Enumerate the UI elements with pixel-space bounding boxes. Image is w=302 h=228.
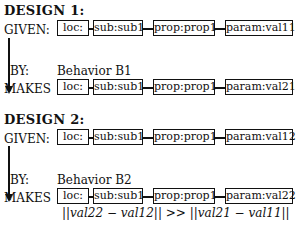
connector (215, 28, 225, 30)
design-1-makes-sub-box: sub:sub1 (93, 79, 143, 95)
design-1-title: DESIGN 1: (4, 3, 85, 18)
connector (143, 196, 153, 198)
design-1-makes-param-box: param:val21 (225, 79, 293, 95)
design-2-given-prop-box: prop:prop1 (153, 129, 215, 145)
connector (143, 28, 153, 30)
design-2-makes-param-box: param:val22 (225, 188, 293, 204)
design-2-makes-sub-box: sub:sub1 (93, 188, 143, 204)
design-1-arrow-line (8, 38, 10, 88)
design-1-behavior: Behavior B1 (57, 64, 132, 78)
design-2-given-loc-box: loc: (57, 129, 89, 145)
design-1-given-loc-box: loc: (57, 20, 89, 36)
connector (215, 137, 225, 139)
connector (143, 87, 153, 89)
design-2-makes-prop-box: prop:prop1 (153, 188, 215, 204)
design-2-given-label: GIVEN: (4, 132, 50, 146)
design-1-given-param-box: param:val11 (225, 20, 293, 36)
design-1-makes-loc-box: loc: (57, 79, 89, 95)
connector (143, 137, 153, 139)
design-1-makes-label: MAKES (4, 82, 51, 96)
connector (215, 87, 225, 89)
design-2-given-param-box: param:val12 (225, 129, 293, 145)
design-1-makes-prop-box: prop:prop1 (153, 79, 215, 95)
connector (215, 196, 225, 198)
design-1-given-sub-box: sub:sub1 (93, 20, 143, 36)
design-1-by-label: BY: (10, 64, 29, 78)
design-2-makes-loc-box: loc: (57, 188, 89, 204)
design-2-given-sub-box: sub:sub1 (93, 129, 143, 145)
design-2-behavior: Behavior B2 (57, 173, 132, 187)
comparison-formula: ||val22 − val12|| >> ||val21 − val11|| (62, 206, 290, 220)
design-2-title: DESIGN 2: (4, 112, 85, 127)
design-1-given-label: GIVEN: (4, 23, 50, 37)
design-2-by-label: BY: (10, 173, 29, 187)
design-2-arrow-line (8, 146, 10, 196)
design-2-makes-label: MAKES (4, 191, 51, 205)
design-1-given-prop-box: prop:prop1 (153, 20, 215, 36)
